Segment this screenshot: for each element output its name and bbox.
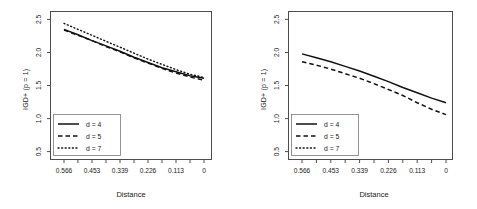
y-axis-right: 2.5 2.0 1.5 1.0 0.5: [273, 14, 289, 156]
x-tick-label: 0.453: [323, 167, 340, 174]
figure-container: 2.5 2.0 1.5 1.0 0.5 0.566 0.453: [0, 0, 477, 209]
x-axis-left: 0.566 0.453 0.339 0.226 0.113 0: [56, 160, 206, 175]
x-axis-right: 0.566 0.453 0.339 0.226 0.113 0: [294, 160, 448, 175]
series-line-d4: [302, 54, 446, 103]
x-tick-label: 0: [202, 167, 206, 174]
data-series-group: [64, 23, 204, 80]
y-tick-label: 1.0: [35, 114, 42, 123]
x-tick-label: 0.113: [168, 167, 184, 174]
legend-right[interactable]: d = 4 d = 5 d = 7: [292, 115, 359, 156]
legend-label-d4: d = 4: [324, 121, 340, 128]
y-axis-left: 2.5 2.0 1.5 1.0 0.5: [35, 14, 51, 156]
y-axis-title: IGD+ (p = 1): [22, 69, 29, 110]
y-tick-label: 1.5: [35, 81, 42, 90]
legend-left[interactable]: d = 4 d = 5 d = 7: [54, 115, 121, 156]
y-tick-label: 0.5: [273, 147, 280, 156]
x-axis-title: Distance: [81, 190, 181, 199]
x-tick-label: 0: [444, 167, 448, 174]
y-tick-label: 1.0: [273, 114, 280, 123]
chart-panel-right: 2.5 2.0 1.5 1.0 0.5 0.566 0.453: [239, 0, 477, 209]
y-tick-label: 2.5: [35, 14, 42, 23]
x-tick-label: 0.566: [294, 167, 311, 174]
y-tick-label: 2.0: [35, 48, 42, 57]
legend-label-d7: d = 7: [86, 145, 102, 152]
x-tick-label: 0.453: [84, 167, 101, 174]
y-axis-title: IGD+ (p = 1): [260, 69, 267, 110]
legend-label-d4: d = 4: [86, 121, 102, 128]
chart-panel-left: 2.5 2.0 1.5 1.0 0.5 0.566 0.453: [0, 0, 238, 209]
plot-svg-left: 2.5 2.0 1.5 1.0 0.5 0.566 0.453: [0, 0, 238, 209]
x-tick-label: 0.339: [112, 167, 129, 174]
plot-svg-right: 2.5 2.0 1.5 1.0 0.5 0.566 0.453: [239, 0, 477, 209]
y-tick-label: 1.5: [273, 81, 280, 90]
data-series-group: [302, 54, 446, 115]
x-tick-label: 0.113: [409, 167, 425, 174]
y-tick-label: 2.0: [273, 48, 280, 57]
x-tick-label: 0.339: [351, 167, 368, 174]
y-tick-label: 0.5: [35, 147, 42, 156]
x-tick-label: 0.226: [140, 167, 157, 174]
legend-label-d5: d = 5: [86, 133, 102, 140]
y-tick-label: 2.5: [273, 14, 280, 23]
legend-label-d7: d = 7: [324, 145, 340, 152]
series-line-d7: [64, 23, 204, 77]
legend-label-d5: d = 5: [324, 133, 340, 140]
x-tick-label: 0.226: [380, 167, 397, 174]
series-line-d5: [302, 62, 446, 115]
x-tick-label: 0.566: [56, 167, 73, 174]
x-axis-title: Distance: [324, 190, 424, 199]
